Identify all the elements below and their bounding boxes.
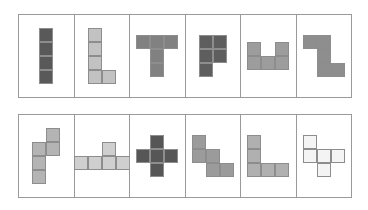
shape-square [74, 156, 88, 170]
shape-square [247, 135, 261, 149]
shape-square [247, 149, 261, 163]
shape-square [39, 56, 53, 70]
tile-panel-x-pentomino-plus[interactable] [129, 114, 186, 198]
tile-panel-y-pentomino[interactable] [74, 114, 131, 198]
shape-square [303, 149, 317, 163]
tile-panel-w-pentomino-staircase[interactable] [185, 114, 242, 198]
shape-v-pentomino [247, 135, 289, 177]
shape-square [206, 163, 220, 177]
shape-square [199, 49, 213, 63]
shape-square [88, 56, 102, 70]
shape-y-pentomino [74, 142, 130, 170]
shape-square [331, 63, 345, 77]
shape-square [88, 42, 102, 56]
shape-square [88, 28, 102, 42]
tile-panel-i-tetromino[interactable] [18, 14, 75, 98]
shape-square [192, 135, 206, 149]
shape-square [206, 149, 220, 163]
shape-square [261, 163, 275, 177]
shape-square [192, 149, 206, 163]
shape-square [32, 156, 46, 170]
shape-square [116, 156, 130, 170]
shape-p-pentomino [199, 35, 227, 77]
tile-panel-v-pentomino[interactable] [240, 114, 297, 198]
tile-panel-p-pentomino[interactable] [185, 14, 242, 98]
shape-square [247, 42, 261, 56]
shape-square [303, 135, 317, 149]
shape-square [331, 149, 345, 163]
shape-square [275, 42, 289, 56]
shape-square [150, 135, 164, 149]
shape-f-pentomino-outline [303, 135, 345, 177]
shape-square [317, 149, 331, 163]
shape-square [317, 49, 331, 63]
shape-square [150, 49, 164, 63]
shape-square [199, 35, 213, 49]
shape-l-pentomino [88, 28, 116, 84]
shape-square [247, 163, 261, 177]
shape-n-pentomino [303, 35, 345, 77]
shape-square [39, 42, 53, 56]
shape-square [261, 56, 275, 70]
tile-panel-l-pentomino[interactable] [74, 14, 131, 98]
shape-square [150, 63, 164, 77]
shape-square [136, 35, 150, 49]
shape-square [150, 149, 164, 163]
shape-square [32, 142, 46, 156]
shape-square [275, 163, 289, 177]
shape-square [102, 70, 116, 84]
shape-square [88, 70, 102, 84]
shape-square [46, 128, 60, 142]
shape-square [32, 170, 46, 184]
shape-square [213, 49, 227, 63]
tile-panel-u-pentomino[interactable] [240, 14, 297, 98]
shape-square [102, 156, 116, 170]
shape-square [317, 63, 331, 77]
shape-square [164, 149, 178, 163]
shape-square [317, 35, 331, 49]
shape-w-pentomino-staircase [192, 135, 234, 177]
tile-row-bottom [18, 114, 352, 198]
tile-row-top [18, 14, 352, 98]
shape-board [0, 0, 368, 210]
shape-square [199, 63, 213, 77]
shape-square [150, 163, 164, 177]
tile-panel-n-pentomino-vertical[interactable] [18, 114, 75, 198]
shape-n-pentomino-vertical [32, 128, 60, 184]
shape-square [136, 149, 150, 163]
shape-square [275, 56, 289, 70]
tile-panel-f-pentomino-outline[interactable] [296, 114, 353, 198]
shape-square [39, 28, 53, 42]
shape-square [164, 35, 178, 49]
shape-t-pentomino [136, 35, 178, 77]
shape-square [303, 35, 317, 49]
shape-i-tetromino [39, 28, 53, 84]
tile-panel-t-pentomino[interactable] [129, 14, 186, 98]
shape-square [39, 70, 53, 84]
shape-u-pentomino [247, 42, 289, 70]
shape-square [317, 163, 331, 177]
shape-x-pentomino-plus [136, 135, 178, 177]
shape-square [220, 163, 234, 177]
shape-square [88, 156, 102, 170]
shape-square [150, 35, 164, 49]
shape-square [213, 35, 227, 49]
tile-panel-n-pentomino[interactable] [296, 14, 353, 98]
shape-square [247, 56, 261, 70]
shape-square [102, 142, 116, 156]
shape-square [46, 142, 60, 156]
